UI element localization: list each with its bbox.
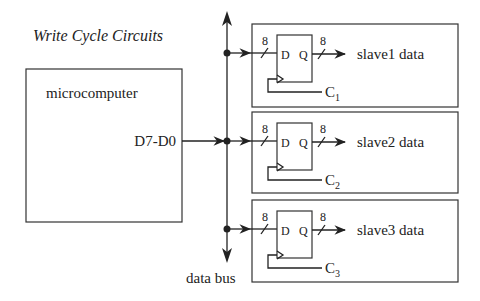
data-bus: data bus — [186, 11, 236, 286]
diagram-title: Write Cycle Circuits — [33, 27, 163, 45]
microcomputer-label: microcomputer — [46, 85, 138, 101]
q-label: Q — [299, 48, 308, 62]
clock-label: C3 — [325, 260, 340, 279]
slave-1: 8 D Q 8 slave1 data C1 — [227, 24, 458, 107]
q-label: Q — [299, 224, 308, 238]
d-label: D — [281, 48, 290, 62]
port-label: D7-D0 — [134, 133, 176, 149]
output-label: slave3 data — [357, 222, 424, 238]
clock-line — [268, 167, 322, 180]
output-width-label: 8 — [320, 210, 326, 224]
slave-2: 8 D Q 8 slave2 data C2 — [227, 112, 458, 193]
d-label: D — [281, 136, 290, 150]
slave-3: 8 D Q 8 slave3 data C3 — [227, 200, 458, 282]
slave-box — [252, 200, 458, 282]
input-width-label: 8 — [262, 122, 268, 136]
q-label: Q — [299, 136, 308, 150]
input-width-label: 8 — [262, 34, 268, 48]
input-width-label: 8 — [262, 210, 268, 224]
clock-label: C1 — [325, 84, 340, 103]
output-width-label: 8 — [320, 122, 326, 136]
microcomputer-block: microcomputer D7-D0 — [26, 69, 182, 222]
clock-label: C2 — [325, 172, 340, 191]
clock-line — [268, 79, 322, 92]
slave-box — [252, 112, 458, 193]
clock-line — [268, 255, 322, 268]
slave-box — [252, 24, 458, 107]
d-label: D — [281, 224, 290, 238]
output-label: slave2 data — [357, 134, 424, 150]
output-width-label: 8 — [320, 34, 326, 48]
bus-label: data bus — [186, 270, 236, 286]
output-label: slave1 data — [357, 46, 424, 62]
write-cycle-diagram: Write Cycle Circuits microcomputer D7-D0… — [0, 0, 480, 301]
